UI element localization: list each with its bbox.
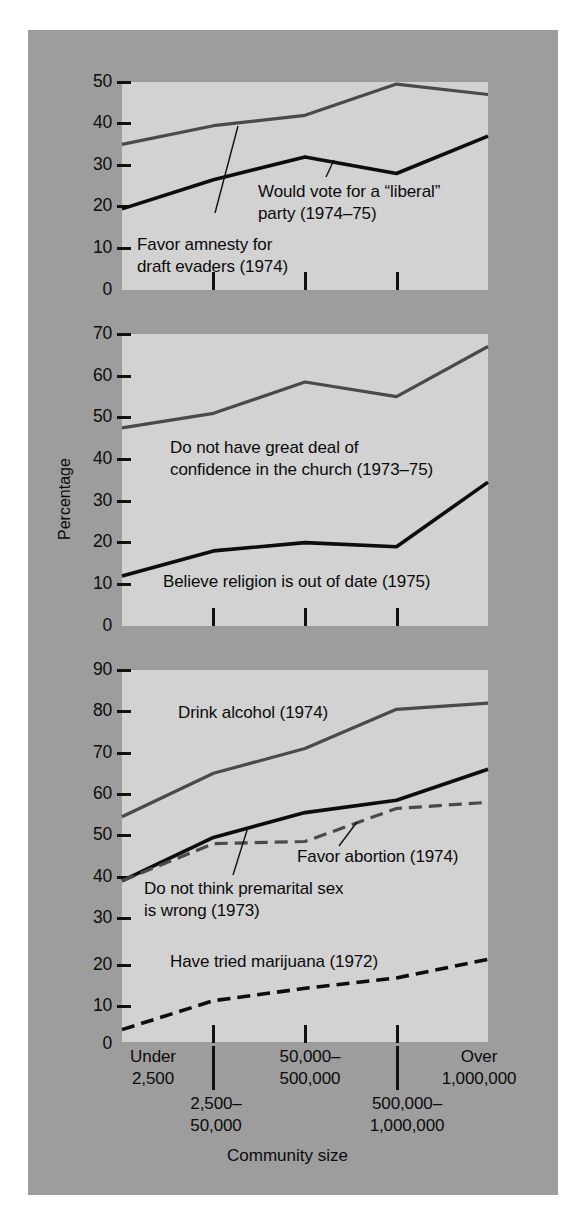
panel-religion-ytick-0: 0 (78, 617, 112, 635)
ann-marijuana: Have tried marijuana (1972) (170, 951, 378, 973)
panel-religion-xtickmark (212, 608, 215, 626)
y-axis-label: Percentage (56, 458, 74, 540)
panel-religion-tickmark (117, 500, 131, 503)
panel-religion-ytick-60: 60 (78, 367, 112, 385)
panel-morals-ytick-70: 70 (78, 744, 112, 762)
panel-politics-tickmark (117, 205, 131, 208)
panel-religion-tickmark (117, 541, 131, 544)
panel-politics-tickmark (117, 247, 131, 250)
panel-morals-ytick-60: 60 (78, 785, 112, 803)
ann-alcohol: Drink alcohol (1974) (178, 702, 328, 724)
ann-amnesty: Favor amnesty for draft evaders (1974) (137, 234, 288, 278)
panel-morals-ytick-30: 30 (78, 909, 112, 927)
panel-politics-ytick-50: 50 (78, 73, 112, 91)
panel-morals-tickmark (117, 1005, 131, 1008)
panel-morals-ytick-50: 50 (78, 826, 112, 844)
panel-politics-xtickmark (304, 272, 307, 290)
panel-religion-ytick-20: 20 (78, 533, 112, 551)
panel-morals-tickmark (117, 834, 131, 837)
panel-morals-ytick-80: 80 (78, 702, 112, 720)
panel-religion-ytick-10: 10 (78, 575, 112, 593)
panel-morals-ytick-20: 20 (78, 956, 112, 974)
xtick-label-over-1000000: Over 1,000,000 (420, 1046, 538, 1090)
xtick-label-under-2500: Under 2,500 (109, 1046, 197, 1090)
panel-politics-tickmark (117, 122, 131, 125)
ann-premarital: Do not think premarital sex is wrong (19… (144, 878, 344, 922)
panel-politics-xtickmark (396, 272, 399, 290)
panel-politics-tickmark (117, 81, 131, 84)
panel-morals-tickmark (117, 917, 131, 920)
panel-religion-ytick-30: 30 (78, 492, 112, 510)
panel-morals-tickmark (117, 669, 131, 672)
panel-morals-tickmark (117, 964, 131, 967)
panel-morals-xtickmark (396, 1025, 399, 1043)
xtick-label-500000-1000000: 500,000– 1,000,000 (352, 1093, 462, 1137)
panel-politics-ytick-30: 30 (78, 156, 112, 174)
xtick-label-2500-50000: 2,500– 50,000 (170, 1093, 262, 1137)
panel-politics-ytick-40: 40 (78, 114, 112, 132)
xtick-leader-line-4 (396, 1046, 399, 1090)
x-axis-label: Community size (227, 1146, 348, 1166)
panel-religion-xtickmark (304, 608, 307, 626)
xtick-label-50000-500000: 50,000– 500,000 (260, 1046, 360, 1090)
panel-politics-tickmark (117, 164, 131, 167)
panel-religion-tickmark (117, 416, 131, 419)
panel-religion-ytick-50: 50 (78, 408, 112, 426)
panel-morals-tickmark (117, 793, 131, 796)
panel-religion-tickmark (117, 375, 131, 378)
panel-politics-ytick-20: 20 (78, 197, 112, 215)
ann-liberal: Would vote for a “liberal” party (1974–7… (258, 181, 440, 225)
panel-politics-ytick-10: 10 (78, 239, 112, 257)
panel-morals-xtickmark (304, 1025, 307, 1043)
panel-religion-tickmark (117, 333, 131, 336)
panel-religion-ytick-40: 40 (78, 450, 112, 468)
panel-morals-tickmark (117, 752, 131, 755)
panel-morals-ytick-90: 90 (78, 661, 112, 679)
figure-root: 50 40 30 20 10 0 Would vote for a “liber… (0, 0, 585, 1225)
panel-morals-ytick-0: 0 (78, 1035, 112, 1053)
panel-religion-tickmark (117, 583, 131, 586)
panel-morals-tickmark (117, 710, 131, 713)
panel-morals-xtickmark (212, 1025, 215, 1043)
panel-morals-ytick-40: 40 (78, 868, 112, 886)
panel-religion-ytick-70: 70 (78, 325, 112, 343)
panel-morals-ytick-10: 10 (78, 997, 112, 1015)
ann-confidence: Do not have great deal of confidence in … (170, 437, 433, 481)
panel-religion-tickmark (117, 458, 131, 461)
ann-religion: Believe religion is out of date (1975) (163, 571, 430, 593)
panel-religion-xtickmark (396, 608, 399, 626)
panel-morals-tickmark (117, 876, 131, 879)
xtick-leader-line-2 (212, 1046, 215, 1090)
ann-abortion: Favor abortion (1974) (297, 846, 458, 868)
panel-politics-ytick-0: 0 (78, 281, 112, 299)
